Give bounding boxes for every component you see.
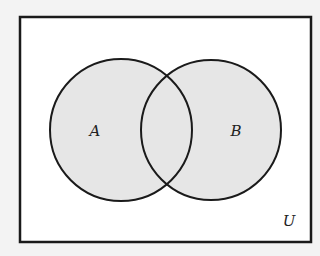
shaded-union — [50, 59, 281, 201]
set-a-label: A — [88, 122, 101, 140]
set-b-label: B — [229, 122, 241, 140]
venn-diagram: A B U — [0, 0, 320, 256]
universe-label: U — [283, 212, 297, 230]
